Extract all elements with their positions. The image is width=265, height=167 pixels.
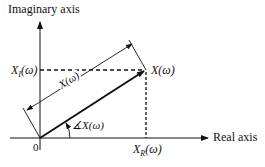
imag-component-label: XI(ω) bbox=[11, 64, 37, 79]
y-axis-label: Imaginary axis bbox=[8, 3, 80, 15]
angle-label: ∡X(ω) bbox=[72, 120, 104, 131]
angle-arc bbox=[66, 123, 70, 138]
complex-plane-diagram: Imaginary axis Real axis 0 XI(ω) XR(ω) X… bbox=[0, 0, 265, 167]
point-label: X(ω) bbox=[151, 64, 175, 76]
origin-label: 0 bbox=[33, 142, 39, 153]
x-axis-label: Real axis bbox=[213, 131, 257, 143]
real-component-label: XR(ω) bbox=[133, 143, 162, 158]
